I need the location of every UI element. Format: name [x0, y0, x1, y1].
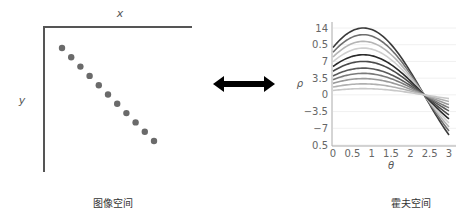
chart-y-ticks: 140.573.50−3.5−70.5 — [304, 23, 328, 151]
image-space-panel: x y 图像空间 — [18, 7, 192, 209]
hough-space-caption: 霍夫空间 — [391, 197, 431, 209]
image-space-caption: 图像空间 — [93, 197, 133, 209]
y-tick-label: −7 — [313, 123, 328, 134]
diagram-canvas: x y 图像空间 140.573.50−3.5−70.5 00.511.522.… — [0, 0, 473, 221]
x-tick-label: 1 — [368, 148, 374, 159]
x-tick-label: 0 — [330, 148, 336, 159]
y-tick-label: −3.5 — [304, 106, 328, 117]
y-tick-label: 3.5 — [312, 73, 328, 84]
chart-x-label: θ — [388, 160, 394, 171]
image-point — [86, 73, 92, 79]
chart-y-label: ρ — [297, 78, 304, 89]
image-y-label: y — [18, 94, 26, 107]
y-tick-label: 14 — [315, 23, 328, 34]
image-point — [96, 82, 102, 88]
x-tick-label: 2.5 — [422, 148, 438, 159]
image-x-label: x — [116, 7, 124, 20]
x-tick-label: 0.5 — [344, 148, 360, 159]
image-point — [68, 54, 74, 60]
hough-space-panel: 140.573.50−3.5−70.5 00.511.522.53 ρ θ 霍夫… — [297, 22, 456, 209]
image-point — [77, 63, 83, 69]
chart-curves — [333, 28, 449, 135]
image-point — [151, 138, 157, 144]
image-points — [59, 45, 157, 144]
image-point — [142, 129, 148, 135]
y-tick-label: 0 — [322, 89, 328, 100]
image-point — [105, 91, 111, 97]
image-point — [114, 101, 120, 107]
chart-x-ticks: 00.511.522.53 — [330, 148, 452, 159]
y-tick-label: 7 — [322, 56, 328, 67]
image-point — [59, 45, 65, 51]
x-tick-label: 3 — [446, 148, 452, 159]
image-point — [132, 119, 138, 125]
y-tick-label: 0.5 — [312, 39, 328, 50]
x-tick-label: 1.5 — [383, 148, 399, 159]
x-tick-label: 2 — [407, 148, 413, 159]
image-point — [123, 110, 129, 116]
y-tick-label: 0.5 — [312, 140, 328, 151]
double-headed-arrow-icon — [213, 76, 275, 92]
